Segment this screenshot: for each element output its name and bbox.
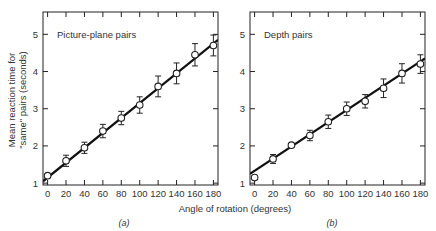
data-point bbox=[417, 61, 424, 68]
fit-line bbox=[250, 59, 425, 174]
data-point bbox=[362, 98, 369, 105]
data-point bbox=[251, 174, 258, 181]
x-tick-label: 60 bbox=[98, 188, 109, 199]
x-tick-label: 20 bbox=[268, 188, 279, 199]
y-tick-label: 3 bbox=[240, 103, 245, 114]
reaction-time-figure: 02040608010012014016018012345Picture-pla… bbox=[0, 0, 436, 231]
x-tick-label: 160 bbox=[394, 188, 410, 199]
panel-title: Depth pairs bbox=[264, 29, 313, 40]
y-tick-label: 2 bbox=[240, 140, 245, 151]
data-point bbox=[380, 85, 387, 92]
x-tick-label: 120 bbox=[357, 188, 373, 199]
data-point bbox=[136, 102, 143, 109]
x-tick-label: 80 bbox=[323, 188, 334, 199]
x-tick-label: 160 bbox=[187, 188, 203, 199]
data-point bbox=[325, 118, 332, 125]
x-tick-label: 40 bbox=[286, 188, 297, 199]
data-point bbox=[63, 158, 70, 165]
panel-b-depth: 02040608010012014016018012345Depth pairs bbox=[240, 12, 429, 199]
y-axis-label-line2: "same" pairs (seconds) bbox=[17, 51, 28, 149]
data-point bbox=[307, 132, 314, 139]
x-tick-label: 100 bbox=[132, 188, 148, 199]
figure-root: 02040608010012014016018012345Picture-pla… bbox=[0, 0, 436, 231]
x-tick-label: 0 bbox=[45, 188, 50, 199]
panel-a-label: (a) bbox=[119, 218, 130, 228]
data-point bbox=[81, 144, 88, 151]
x-tick-label: 0 bbox=[252, 188, 257, 199]
y-tick-label: 5 bbox=[240, 29, 245, 40]
y-tick-label: 4 bbox=[240, 66, 245, 77]
x-tick-label: 80 bbox=[116, 188, 127, 199]
panel-a-picture-plane: 02040608010012014016018012345Picture-pla… bbox=[33, 12, 222, 199]
x-tick-label: 140 bbox=[169, 188, 185, 199]
y-tick-label: 3 bbox=[33, 103, 38, 114]
data-point bbox=[44, 172, 51, 179]
x-tick-label: 120 bbox=[150, 188, 166, 199]
data-point bbox=[288, 142, 295, 149]
y-tick-label: 1 bbox=[240, 178, 245, 189]
panel-title: Picture-plane pairs bbox=[57, 29, 136, 40]
x-tick-label: 60 bbox=[305, 188, 316, 199]
data-point bbox=[173, 70, 180, 77]
x-axis-label: Angle of rotation (degrees) bbox=[179, 203, 291, 214]
y-tick-label: 4 bbox=[33, 66, 38, 77]
y-tick-label: 2 bbox=[33, 140, 38, 151]
y-axis-label-line1: Mean reaction time for bbox=[6, 53, 17, 148]
data-point bbox=[192, 51, 199, 58]
data-point bbox=[118, 115, 125, 122]
y-tick-label: 5 bbox=[33, 29, 38, 40]
x-tick-label: 40 bbox=[79, 188, 90, 199]
data-point bbox=[399, 70, 406, 77]
x-tick-label: 180 bbox=[205, 188, 221, 199]
panel-b-label: (b) bbox=[327, 218, 338, 228]
data-point bbox=[155, 83, 162, 90]
x-tick-label: 20 bbox=[61, 188, 72, 199]
x-tick-label: 100 bbox=[339, 188, 355, 199]
y-tick-label: 1 bbox=[33, 178, 38, 189]
x-tick-label: 180 bbox=[412, 188, 428, 199]
data-point bbox=[100, 128, 107, 135]
x-tick-label: 140 bbox=[376, 188, 392, 199]
data-point bbox=[210, 42, 217, 49]
data-point bbox=[270, 156, 277, 163]
data-point bbox=[343, 105, 350, 112]
